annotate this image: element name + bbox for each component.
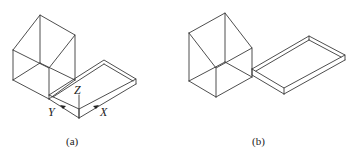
z-axis-label: Z [74,84,81,96]
panel-a-house [13,15,75,99]
caption-b: (b) [252,136,265,147]
figure: Z Y X (a) (b) [0,0,346,159]
y-axis-label: Y [48,106,55,118]
panel-b-slab [252,36,345,94]
x-axis-label: X [100,106,107,118]
caption-a: (a) [66,136,78,147]
wireframe-drawing [0,0,346,159]
panel-b-house [189,13,252,97]
